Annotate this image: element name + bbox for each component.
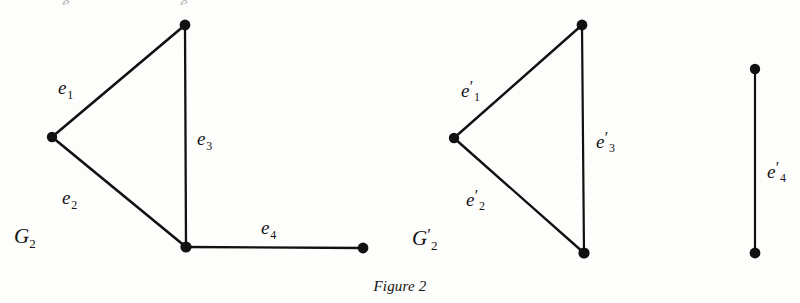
vertex-g2-bottom	[180, 241, 191, 252]
cropped-text-fragment-left: e	[62, 0, 70, 5]
vertex-g2prime-bottom	[578, 247, 589, 258]
vertex-g2prime-left	[449, 133, 459, 143]
edge-label-e4-prime-mark: ′	[776, 159, 780, 176]
edge-label-e2-prime-base: e	[466, 189, 475, 210]
graph-label-g2-prime-base: G	[412, 226, 427, 250]
edge-label-e2-prime-mark: ′	[475, 187, 479, 204]
graph-label-g2-prime: G′2	[412, 226, 437, 252]
edge-label-e1-prime-base: e	[461, 80, 470, 101]
edge-label-e3-base: e	[197, 128, 206, 149]
edge-label-e2-prime-subscript: 2	[479, 199, 486, 213]
vertex-g2-top	[180, 20, 191, 31]
edge-label-e4-prime-subscript: 4	[780, 171, 787, 185]
edge-label-e4: e4	[261, 218, 276, 241]
graph-label-g2-prime-subscript: 2	[431, 238, 438, 253]
edge-label-e3-prime-subscript: 3	[609, 141, 616, 155]
edge-label-e1-base: e	[58, 77, 67, 98]
figure-caption: Figure 2	[0, 278, 800, 295]
edge-e4	[186, 247, 363, 248]
edge-label-e2-prime: e′2	[466, 188, 485, 212]
edge-label-e1-prime-subscript: 1	[474, 90, 481, 104]
edge-label-e2-base: e	[62, 187, 71, 208]
vertex-g2prime-iso-bottom	[750, 248, 761, 259]
edge-e3-prime	[582, 25, 584, 253]
graph-label-g2-base: G	[14, 224, 29, 248]
vertex-g2prime-iso-top	[750, 64, 760, 74]
edge-label-e1-prime: e′1	[461, 79, 480, 103]
graph-label-g2-subscript: 2	[29, 236, 36, 251]
cropped-text-fragment-right: e	[180, 0, 188, 5]
edge-label-e4-prime-base: e	[767, 161, 776, 182]
edge-label-e4-prime: e′4	[767, 160, 786, 184]
vertex-g2-left	[47, 132, 57, 142]
edge-label-e4-base: e	[261, 217, 270, 238]
edge-label-e2-subscript: 2	[71, 198, 78, 212]
vertex-g2-right	[358, 243, 369, 254]
edge-label-e3-prime-mark: ′	[605, 129, 609, 146]
edge-label-e1-prime-mark: ′	[470, 78, 474, 95]
edge-label-e1-subscript: 1	[67, 88, 74, 102]
edge-label-e3-prime: e′3	[596, 130, 615, 154]
edge-label-e3-prime-base: e	[596, 131, 605, 152]
figure-2-container: e e e1 e2 e3 e4 G2 e′1 e′2 e′3 e′4 G′2 F…	[0, 0, 800, 303]
vertex-g2prime-top	[577, 20, 588, 31]
edge-label-e2: e2	[62, 188, 77, 211]
edge-label-e3: e3	[197, 129, 212, 152]
graph-drawing-canvas	[0, 0, 800, 303]
edge-label-e1: e1	[58, 78, 73, 101]
graph-label-g2: G2	[14, 226, 36, 250]
edge-e3	[185, 25, 186, 247]
edge-label-e4-subscript: 4	[270, 228, 277, 242]
edge-label-e3-subscript: 3	[206, 139, 213, 153]
